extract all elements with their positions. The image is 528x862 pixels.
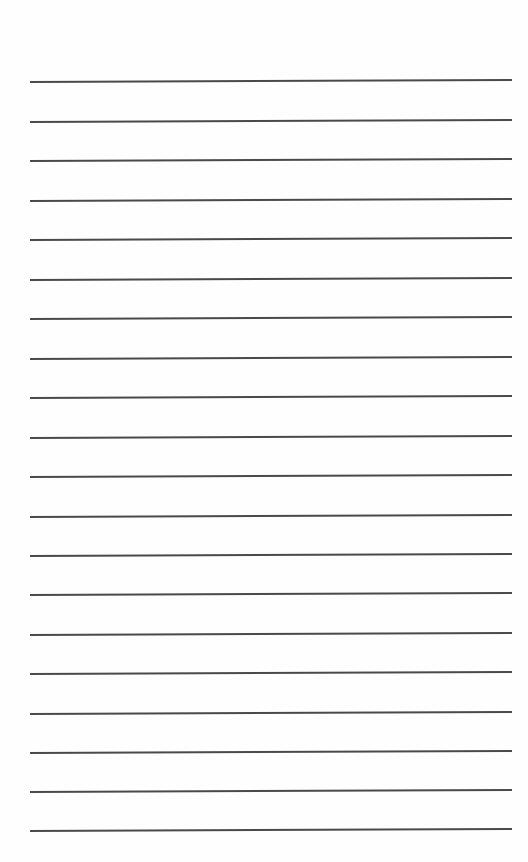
ruled-line (30, 750, 512, 754)
ruled-line (30, 158, 512, 162)
ruled-line (30, 356, 512, 360)
ruled-line (30, 592, 512, 596)
ruled-line (30, 711, 512, 715)
ruled-line (30, 198, 512, 202)
ruled-line (30, 553, 512, 557)
ruled-line (30, 514, 512, 518)
ruled-line (30, 277, 512, 281)
ruled-line (30, 828, 512, 832)
ruled-line (30, 395, 512, 399)
ruled-line (30, 119, 512, 123)
ruled-line (30, 435, 512, 439)
ruled-line (30, 237, 512, 241)
ruled-line (30, 316, 512, 320)
ruled-line (30, 79, 512, 83)
ruled-line (30, 789, 512, 793)
ruled-line (30, 632, 512, 636)
lined-paper-page (0, 0, 528, 862)
ruled-line (30, 671, 512, 675)
ruled-line (30, 474, 512, 478)
